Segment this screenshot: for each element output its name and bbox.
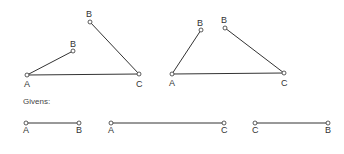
endpoint-label-B: B xyxy=(76,125,82,135)
endpoint-label-B: B xyxy=(325,125,331,135)
point-label-A: A xyxy=(24,79,30,89)
point-B-icon xyxy=(88,20,92,24)
point-label-C: C xyxy=(281,78,288,88)
left-construction-segment-BC xyxy=(90,22,139,74)
endpoint-label-C: C xyxy=(221,125,228,135)
point-label-C: C xyxy=(136,79,143,89)
point-A-icon xyxy=(170,72,174,76)
endpoint-label-A: A xyxy=(23,125,29,135)
givens-heading: Givens: xyxy=(23,97,50,106)
point-label-A: A xyxy=(169,78,175,88)
right-construction-segment-BC xyxy=(225,28,284,73)
right-construction-segment-AC xyxy=(172,73,284,74)
diagram-canvas: ACBBACBBABACCB xyxy=(0,0,344,154)
point-label-B: B xyxy=(197,18,203,28)
point-B-icon xyxy=(199,28,203,32)
point-label-B: B xyxy=(86,9,92,19)
left-construction-segment-AB xyxy=(27,51,73,75)
endpoint-label-A: A xyxy=(108,125,114,135)
point-label-B: B xyxy=(221,15,227,25)
point-C-icon xyxy=(282,71,286,75)
point-B-icon xyxy=(223,26,227,30)
point-label-B: B xyxy=(70,39,76,49)
endpoint-label-C: C xyxy=(252,125,259,135)
left-construction-segment-AC xyxy=(27,74,139,75)
point-C-icon xyxy=(137,72,141,76)
point-B-icon xyxy=(71,49,75,53)
point-A-icon xyxy=(25,73,29,77)
right-construction-segment-AB xyxy=(172,30,201,74)
